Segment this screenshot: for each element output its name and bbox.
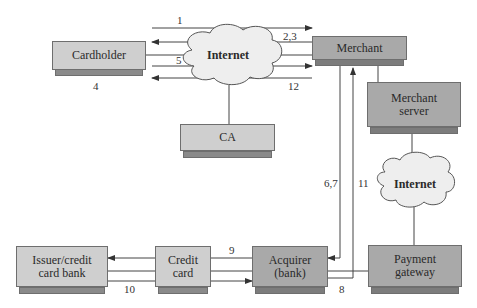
credit-card-node: Credit card [155, 246, 211, 294]
flow-label-1: 1 [177, 14, 183, 26]
payment-gateway-line2: gateway [395, 266, 435, 279]
issuer-bank-node: Issuer/credit card bank [16, 246, 108, 294]
flow-label-10: 10 [124, 283, 135, 295]
internet-label-right: Internet [394, 177, 436, 192]
merchant-server-line2: server [399, 105, 428, 118]
acquirer-node: Acquirer (bank) [252, 246, 328, 294]
acquirer-line1: Acquirer [269, 254, 312, 267]
payment-gateway-node: Payment gateway [368, 245, 462, 294]
flow-label-12: 12 [288, 80, 299, 92]
cardholder-node: Cardholder [52, 41, 146, 76]
flow-label-2-3: 2,3 [283, 30, 297, 42]
issuer-line1: Issuer/credit [32, 254, 91, 267]
flow-label-4: 4 [93, 80, 99, 92]
flow-label-5: 5 [176, 54, 182, 66]
issuer-line2: card bank [39, 267, 86, 280]
merchant-label: Merchant [312, 36, 407, 60]
flow-label-6-7: 6,7 [324, 177, 338, 189]
merchant-node: Merchant [312, 36, 407, 66]
flow-label-9: 9 [229, 244, 235, 256]
flow-label-11: 11 [358, 177, 369, 189]
cardholder-label: Cardholder [52, 41, 146, 70]
credit-card-line2: card [173, 267, 194, 280]
ca-node: CA [180, 124, 275, 158]
acquirer-line2: (bank) [274, 267, 305, 280]
ca-label: CA [180, 124, 275, 151]
credit-card-line1: Credit [168, 254, 198, 267]
merchant-server-node: Merchant server [367, 82, 461, 134]
merchant-server-line1: Merchant [391, 92, 437, 105]
flow-label-8: 8 [339, 283, 345, 295]
internet-label-top: Internet [207, 48, 249, 63]
